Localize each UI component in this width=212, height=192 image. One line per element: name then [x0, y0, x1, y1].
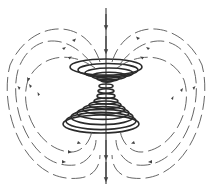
lower-coil-rings [63, 98, 139, 133]
field-arrow-icon [38, 92, 41, 96]
field-arrow-icon [18, 86, 21, 90]
field-arrow-icon [180, 88, 183, 92]
field-arrow-icon [29, 84, 32, 88]
field-arrow-icon [136, 37, 140, 41]
field-arrow-icon [131, 141, 135, 144]
field-arrow-icon [77, 141, 81, 144]
field-diagram-svg [0, 0, 212, 192]
field-arrow-icon [148, 160, 152, 164]
left-field-loops [7, 29, 100, 179]
right-field-loops [112, 29, 205, 179]
field-arrow-icon [193, 86, 196, 90]
field-arrow-icon [62, 47, 66, 50]
field-arrow-icon [62, 160, 66, 164]
field-diagram [0, 0, 212, 192]
field-arrow-icon [72, 39, 76, 43]
field-arrow-icon [171, 96, 174, 100]
field-arrow-icon [146, 47, 150, 50]
